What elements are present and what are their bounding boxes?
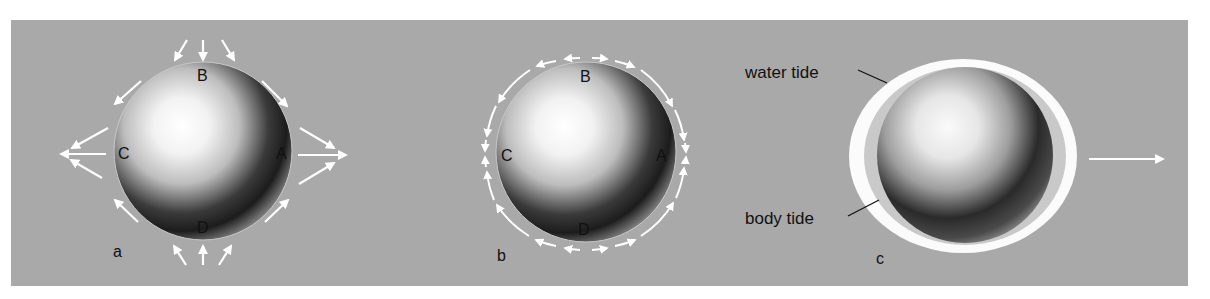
earth-sphere-b bbox=[496, 62, 676, 242]
point-label-b-a: B bbox=[197, 67, 208, 84]
water-tide-label: water tide bbox=[744, 63, 819, 82]
earth-sphere-a bbox=[114, 62, 292, 240]
point-label-b-b: B bbox=[580, 68, 591, 85]
panel-caption-b: b bbox=[497, 247, 506, 264]
point-label-d-a: D bbox=[197, 219, 209, 236]
point-label-a-b: A bbox=[656, 147, 667, 164]
point-label-a-a: A bbox=[276, 145, 287, 162]
panel-caption-c: c bbox=[876, 250, 884, 267]
panel-caption-a: a bbox=[113, 243, 122, 260]
earth-sphere-c bbox=[877, 67, 1053, 243]
point-label-c-b: C bbox=[501, 147, 513, 164]
point-label-d-b: D bbox=[578, 221, 590, 238]
point-label-c-a: C bbox=[118, 145, 130, 162]
tidal-forces-diagram: B C A D a bbox=[0, 0, 1210, 299]
body-tide-label: body tide bbox=[745, 209, 814, 228]
